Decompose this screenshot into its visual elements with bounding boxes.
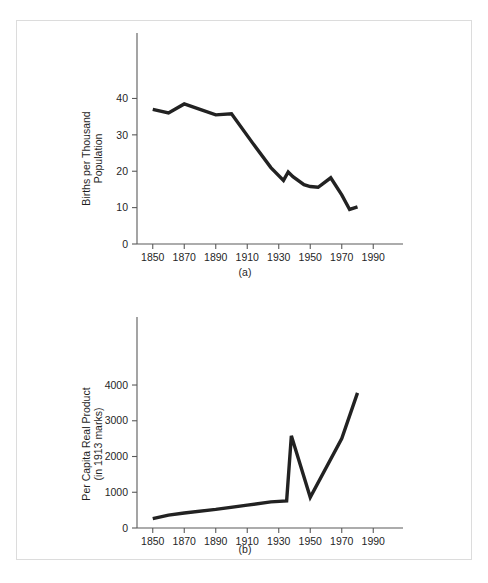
y-axis-title-line2: (in 1913 marks) [92, 408, 104, 481]
x-tick-label: 1890 [204, 251, 228, 263]
y-tick-label: 1000 [105, 486, 129, 498]
figure-page: 0102030401850187018901910193019501970199… [0, 0, 488, 583]
y-tick-label: 4000 [105, 379, 129, 391]
x-tick-label: 1870 [173, 251, 197, 263]
y-axis-title-line1: Per Capita Real Product [80, 387, 92, 500]
y-tick-label: 2000 [105, 450, 129, 462]
figure-frame: 0102030401850187018901910193019501970199… [16, 20, 472, 560]
chart-svg-b: 0100020003000400018501870189019101930195… [17, 303, 473, 548]
x-tick-label: 1990 [362, 251, 386, 263]
data-series-line [153, 393, 358, 519]
x-tick-label: 1930 [267, 251, 291, 263]
y-tick-label: 40 [116, 92, 128, 104]
chart-svg-a: 0102030401850187018901910193019501970199… [17, 21, 473, 271]
data-series-line [153, 104, 358, 210]
chart-panel-b: 0100020003000400018501870189019101930195… [17, 303, 473, 561]
y-tick-label: 30 [116, 129, 128, 141]
y-tick-label: 20 [116, 165, 128, 177]
x-tick-label: 1850 [141, 251, 165, 263]
y-tick-label: 3000 [105, 414, 129, 426]
y-tick-label: 0 [122, 522, 128, 534]
x-tick-label: 1950 [299, 251, 323, 263]
x-tick-label: 1970 [330, 251, 354, 263]
x-tick-label: 1910 [236, 251, 260, 263]
y-axis-title-line1: Births per Thousand [80, 111, 92, 206]
y-tick-label: 10 [116, 201, 128, 213]
panel-a-caption: (a) [17, 266, 473, 278]
panel-b-caption: (b) [17, 543, 473, 555]
y-axis-title-line2: Population [92, 134, 104, 184]
chart-panel-a: 0102030401850187018901910193019501970199… [17, 21, 473, 291]
y-tick-label: 0 [122, 238, 128, 250]
